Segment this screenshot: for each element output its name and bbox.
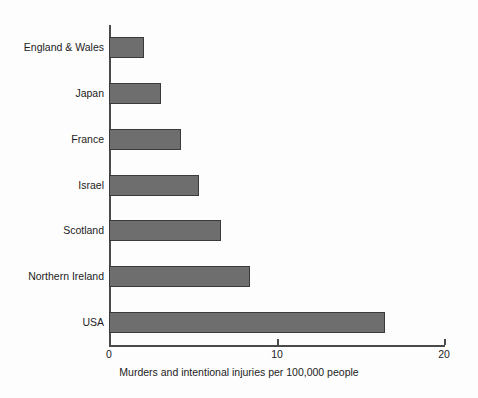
bar-fill <box>109 312 385 333</box>
bar-fill <box>109 266 250 287</box>
x-tick-mark <box>277 339 279 345</box>
category-label: England & Wales <box>0 37 104 58</box>
bar <box>109 175 199 196</box>
category-label: Israel <box>0 175 104 196</box>
x-tick-mark <box>109 339 111 345</box>
category-label: Northern Ireland <box>0 266 104 287</box>
bar-chart: England & WalesJapanFranceIsraelScotland… <box>0 0 478 398</box>
x-tick-label: 10 <box>257 348 297 360</box>
x-axis-line <box>109 345 445 347</box>
x-axis-title: Murders and intentional injuries per 100… <box>0 366 478 378</box>
category-label: USA <box>0 312 104 333</box>
bar <box>109 312 385 333</box>
bar <box>109 37 144 58</box>
category-label: Japan <box>0 83 104 104</box>
bar-fill <box>109 129 181 150</box>
bar <box>109 83 161 104</box>
category-label: Scotland <box>0 220 104 241</box>
bar-fill <box>109 175 199 196</box>
x-tick-label: 0 <box>89 348 129 360</box>
bar-fill <box>109 37 144 58</box>
bar <box>109 266 250 287</box>
bar <box>109 129 181 150</box>
x-tick-label: 20 <box>424 348 464 360</box>
x-tick-mark <box>444 339 446 345</box>
bar-fill <box>109 220 221 241</box>
category-label: France <box>0 129 104 150</box>
bar <box>109 220 221 241</box>
bar-fill <box>109 83 161 104</box>
